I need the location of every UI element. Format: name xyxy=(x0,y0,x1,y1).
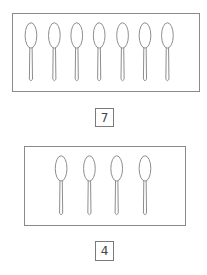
spoon-set-top xyxy=(13,14,199,91)
spoon-icon xyxy=(71,23,83,81)
spoon-icon xyxy=(25,23,37,81)
spoon-icon xyxy=(84,156,96,215)
spoon-icon xyxy=(48,23,60,81)
spoon-group-panel-top xyxy=(12,13,200,92)
spoon-group-panel-bottom xyxy=(24,146,186,226)
count-label-bottom: 4 xyxy=(95,241,114,261)
spoon-icon xyxy=(55,156,67,215)
spoon-icon xyxy=(111,156,123,215)
count-value-bottom: 4 xyxy=(101,244,109,258)
spoon-icon xyxy=(162,23,174,81)
count-value-top: 7 xyxy=(101,111,109,125)
spoon-icon xyxy=(139,156,151,215)
spoon-icon xyxy=(117,23,129,81)
spoon-icon xyxy=(93,23,105,81)
spoon-icon xyxy=(139,23,151,81)
count-label-top: 7 xyxy=(95,108,114,127)
spoon-set-bottom xyxy=(25,147,185,225)
